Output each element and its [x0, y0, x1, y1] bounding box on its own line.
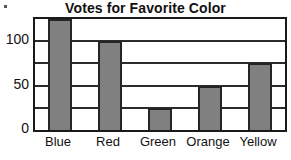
x-tick-label-blue: Blue [33, 134, 83, 150]
bar-slot [248, 19, 272, 130]
bar-slot [48, 19, 72, 130]
bar-slot [98, 19, 122, 130]
plot-area [33, 17, 287, 132]
x-tick-label-yellow: Yellow [233, 134, 283, 150]
x-tick-label-red: Red [83, 134, 133, 150]
chart-title: Votes for Favorite Color [0, 0, 291, 16]
x-axis: BlueRedGreenOrangeYellow [33, 134, 287, 156]
bar-chart-figure: Votes for Favorite Color 050100 BlueRedG… [0, 0, 291, 160]
x-tick-label-orange: Orange [183, 134, 233, 150]
y-tick-label: 50 [13, 77, 29, 91]
bar-orange[interactable] [198, 86, 222, 130]
bars-layer [35, 19, 285, 130]
bar-blue[interactable] [48, 19, 72, 130]
bar-red[interactable] [98, 41, 122, 130]
y-tick-label: 100 [6, 32, 29, 46]
bar-slot [198, 19, 222, 130]
x-tick-label-green: Green [133, 134, 183, 150]
y-tick-label: 0 [21, 121, 29, 135]
y-axis: 050100 [0, 17, 31, 132]
bar-yellow[interactable] [248, 63, 272, 130]
bar-green[interactable] [148, 108, 172, 130]
bar-slot [148, 19, 172, 130]
